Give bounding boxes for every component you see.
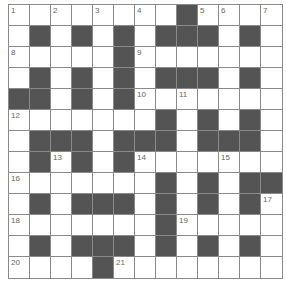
answer-cell[interactable] <box>114 173 135 194</box>
answer-cell[interactable] <box>9 194 30 215</box>
answer-cell[interactable] <box>219 173 240 194</box>
answer-cell[interactable] <box>51 257 72 278</box>
answer-cell[interactable] <box>177 110 198 131</box>
answer-cell[interactable]: 9 <box>135 47 156 68</box>
answer-cell[interactable]: 10 <box>135 89 156 110</box>
answer-cell[interactable] <box>135 110 156 131</box>
answer-cell[interactable] <box>9 152 30 173</box>
answer-cell[interactable] <box>114 110 135 131</box>
answer-cell[interactable] <box>114 5 135 26</box>
answer-cell[interactable] <box>30 215 51 236</box>
answer-cell[interactable]: 4 <box>135 5 156 26</box>
answer-cell[interactable] <box>261 47 282 68</box>
answer-cell[interactable]: 1 <box>9 5 30 26</box>
answer-cell[interactable] <box>177 131 198 152</box>
answer-cell[interactable] <box>135 68 156 89</box>
answer-cell[interactable] <box>177 257 198 278</box>
answer-cell[interactable] <box>135 236 156 257</box>
answer-cell[interactable] <box>51 89 72 110</box>
answer-cell[interactable] <box>219 194 240 215</box>
answer-cell[interactable] <box>135 215 156 236</box>
answer-cell[interactable]: 13 <box>51 152 72 173</box>
answer-cell[interactable] <box>219 47 240 68</box>
answer-cell[interactable] <box>198 47 219 68</box>
answer-cell[interactable] <box>261 215 282 236</box>
answer-cell[interactable] <box>30 173 51 194</box>
answer-cell[interactable] <box>219 257 240 278</box>
answer-cell[interactable] <box>177 47 198 68</box>
answer-cell[interactable] <box>219 68 240 89</box>
answer-cell[interactable] <box>135 194 156 215</box>
answer-cell[interactable] <box>51 173 72 194</box>
answer-cell[interactable]: 17 <box>261 194 282 215</box>
answer-cell[interactable] <box>156 152 177 173</box>
answer-cell[interactable] <box>93 89 114 110</box>
answer-cell[interactable] <box>51 68 72 89</box>
answer-cell[interactable]: 20 <box>9 257 30 278</box>
answer-cell[interactable] <box>156 89 177 110</box>
answer-cell[interactable] <box>72 47 93 68</box>
answer-cell[interactable] <box>72 173 93 194</box>
answer-cell[interactable] <box>30 47 51 68</box>
answer-cell[interactable] <box>51 215 72 236</box>
answer-cell[interactable] <box>240 47 261 68</box>
answer-cell[interactable] <box>240 215 261 236</box>
answer-cell[interactable] <box>93 173 114 194</box>
answer-cell[interactable]: 7 <box>261 5 282 26</box>
answer-cell[interactable] <box>9 236 30 257</box>
answer-cell[interactable] <box>177 236 198 257</box>
answer-cell[interactable] <box>156 47 177 68</box>
answer-cell[interactable]: 18 <box>9 215 30 236</box>
answer-cell[interactable] <box>9 131 30 152</box>
answer-cell[interactable] <box>93 68 114 89</box>
answer-cell[interactable] <box>219 215 240 236</box>
answer-cell[interactable] <box>51 194 72 215</box>
answer-cell[interactable]: 11 <box>177 89 198 110</box>
answer-cell[interactable] <box>93 152 114 173</box>
answer-cell[interactable] <box>261 152 282 173</box>
answer-cell[interactable]: 5 <box>198 5 219 26</box>
answer-cell[interactable]: 15 <box>219 152 240 173</box>
answer-cell[interactable] <box>30 110 51 131</box>
answer-cell[interactable] <box>219 26 240 47</box>
answer-cell[interactable] <box>198 89 219 110</box>
answer-cell[interactable] <box>261 26 282 47</box>
answer-cell[interactable] <box>219 89 240 110</box>
answer-cell[interactable] <box>156 257 177 278</box>
answer-cell[interactable] <box>156 5 177 26</box>
answer-cell[interactable] <box>93 131 114 152</box>
answer-cell[interactable] <box>72 257 93 278</box>
answer-cell[interactable] <box>240 5 261 26</box>
answer-cell[interactable] <box>261 89 282 110</box>
answer-cell[interactable] <box>261 68 282 89</box>
answer-cell[interactable] <box>72 110 93 131</box>
answer-cell[interactable]: 6 <box>219 5 240 26</box>
answer-cell[interactable] <box>261 257 282 278</box>
answer-cell[interactable] <box>9 26 30 47</box>
answer-cell[interactable] <box>30 257 51 278</box>
answer-cell[interactable]: 8 <box>9 47 30 68</box>
answer-cell[interactable] <box>51 110 72 131</box>
answer-cell[interactable] <box>51 47 72 68</box>
answer-cell[interactable] <box>240 152 261 173</box>
answer-cell[interactable] <box>177 173 198 194</box>
answer-cell[interactable] <box>261 236 282 257</box>
answer-cell[interactable] <box>93 47 114 68</box>
answer-cell[interactable]: 21 <box>114 257 135 278</box>
answer-cell[interactable] <box>177 152 198 173</box>
answer-cell[interactable] <box>72 215 93 236</box>
answer-cell[interactable] <box>93 215 114 236</box>
answer-cell[interactable] <box>135 173 156 194</box>
answer-cell[interactable] <box>72 5 93 26</box>
answer-cell[interactable] <box>240 89 261 110</box>
answer-cell[interactable] <box>261 110 282 131</box>
answer-cell[interactable] <box>93 110 114 131</box>
answer-cell[interactable] <box>177 194 198 215</box>
answer-cell[interactable] <box>51 236 72 257</box>
answer-cell[interactable]: 2 <box>51 5 72 26</box>
answer-cell[interactable] <box>135 26 156 47</box>
answer-cell[interactable] <box>114 215 135 236</box>
answer-cell[interactable] <box>261 131 282 152</box>
answer-cell[interactable]: 19 <box>177 215 198 236</box>
answer-cell[interactable] <box>198 257 219 278</box>
